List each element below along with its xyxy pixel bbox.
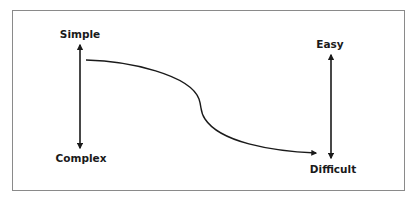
label-easy: Easy [316, 38, 343, 50]
label-simple: Simple [60, 28, 100, 40]
label-difficult: Difficult [310, 163, 356, 175]
label-complex: Complex [56, 152, 107, 164]
s-curve-arrow [86, 60, 316, 153]
